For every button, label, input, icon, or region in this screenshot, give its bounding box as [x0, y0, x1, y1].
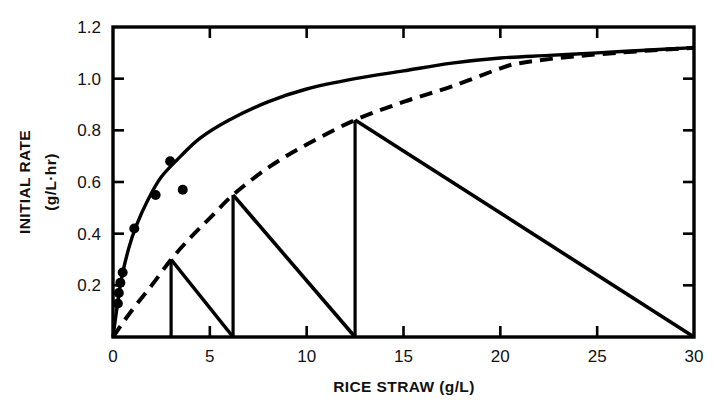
y-tick-label: 0.8 — [77, 121, 101, 140]
data-point-marker — [113, 298, 123, 308]
x-tick-label: 15 — [394, 347, 413, 366]
x-tick-label: 20 — [491, 347, 510, 366]
chart-svg: 051015202530 0.20.40.60.81.01.2 RICE STR… — [0, 0, 718, 406]
y-axis-title-primary: INITIAL RATE — [16, 130, 33, 234]
y-tick-label: 0.2 — [77, 276, 101, 295]
data-point-marker — [165, 156, 175, 166]
figure-container: 051015202530 0.20.40.60.81.01.2 RICE STR… — [0, 0, 718, 406]
x-tick-label: 10 — [297, 347, 316, 366]
data-point-marker — [151, 190, 161, 200]
y-tick-label: 0.4 — [77, 225, 101, 244]
y-tick-label: 0.6 — [77, 173, 101, 192]
data-point-marker — [178, 185, 188, 195]
data-point-marker — [115, 278, 125, 288]
y-tick-label: 1.2 — [77, 18, 101, 37]
y-tick-label: 1.0 — [77, 70, 101, 89]
chart-background — [0, 0, 718, 406]
data-point-marker — [129, 224, 139, 234]
data-point-marker — [114, 288, 124, 298]
x-axis-title: RICE STRAW (g/L) — [333, 378, 475, 395]
x-tick-label: 25 — [588, 347, 607, 366]
x-tick-label: 30 — [685, 347, 704, 366]
data-point-marker — [118, 267, 128, 277]
x-tick-label: 0 — [108, 347, 117, 366]
x-tick-label: 5 — [205, 347, 214, 366]
y-axis-title-units: (g/L·hr) — [42, 153, 59, 210]
